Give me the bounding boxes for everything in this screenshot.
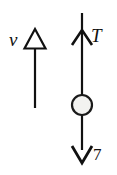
physics-diagram: v T 7: [0, 0, 117, 175]
tension-label: T: [91, 26, 102, 45]
velocity-arrowhead-icon: [25, 29, 46, 49]
velocity-label: v: [9, 30, 17, 49]
ball-icon: [72, 95, 92, 115]
weight-label: 7: [93, 146, 102, 163]
